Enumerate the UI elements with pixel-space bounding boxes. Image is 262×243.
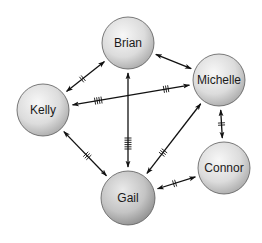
node-connor: Connor	[198, 142, 250, 194]
edge-arrow-line	[73, 85, 190, 105]
edge-arrow-line	[158, 177, 196, 189]
edge-arrow-line	[147, 104, 201, 174]
node-label: Michelle	[197, 73, 241, 87]
edge-kelly-brian	[67, 62, 105, 92]
edge-kelly-gail	[64, 132, 107, 176]
node-kelly: Kelly	[17, 84, 69, 136]
node-label: Gail	[117, 191, 138, 205]
network-diagram: BrianMichelleKellyConnorGail	[0, 0, 262, 243]
edge-brian-michelle	[156, 54, 191, 68]
node-label: Connor	[204, 161, 243, 175]
edge-arrow-line	[221, 110, 223, 138]
edge-michelle-connor	[218, 110, 225, 138]
node-brian: Brian	[102, 17, 154, 69]
node-label: Brian	[114, 36, 142, 50]
node-michelle: Michelle	[193, 54, 245, 106]
node-label: Kelly	[30, 103, 56, 117]
nodes-layer: BrianMichelleKellyConnorGail	[17, 17, 250, 225]
edge-arrow-line	[67, 62, 105, 92]
edge-connor-gail	[158, 177, 196, 189]
edge-arrow-line	[64, 132, 107, 176]
edge-brian-gail	[125, 73, 132, 167]
hash-marks	[163, 85, 169, 93]
edge-arrow-line	[156, 54, 191, 68]
node-gail: Gail	[101, 171, 155, 225]
edge-kelly-michelle	[73, 85, 190, 105]
edge-michelle-gail	[147, 104, 201, 174]
